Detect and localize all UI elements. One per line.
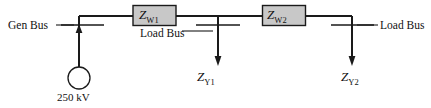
series-impedance-1-subscript: W1 xyxy=(146,15,159,25)
series-impedance-1-label: ZW1 xyxy=(139,8,159,24)
shunt-impedance-1-subscript: Y1 xyxy=(204,77,215,87)
source-voltage-label: 250 kV xyxy=(57,92,90,103)
circuit-diagram: Gen Bus Load Bus Load Bus 250 kV ZW1 ZW2… xyxy=(0,0,431,108)
load-bus-1-label: Load Bus xyxy=(140,28,184,40)
shunt-impedance-1-label: ZY1 xyxy=(197,70,215,86)
series-impedance-2-label: ZW2 xyxy=(267,8,287,24)
series-impedance-2-subscript: W2 xyxy=(274,15,287,25)
shunt-1-current-arrow-icon xyxy=(215,56,222,66)
load-bus-2-label: Load Bus xyxy=(380,20,424,32)
shunt-impedance-2-label: ZY2 xyxy=(341,70,359,86)
gen-bus-label: Gen Bus xyxy=(8,20,48,32)
shunt-2-current-arrow-icon xyxy=(349,56,356,66)
voltage-source-circle xyxy=(68,67,90,89)
shunt-impedance-2-subscript: Y2 xyxy=(348,77,359,87)
